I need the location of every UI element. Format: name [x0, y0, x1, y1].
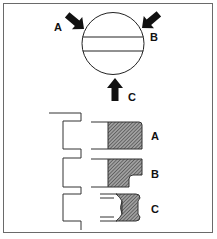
label-b-profile: B — [151, 168, 159, 180]
arrow-c-icon — [107, 78, 123, 101]
ball-top-view — [82, 13, 144, 75]
label-a-top: A — [54, 21, 62, 33]
label-a-profile: A — [151, 130, 159, 142]
profile-b — [91, 159, 142, 187]
label-c-top: C — [128, 91, 136, 103]
label-c-profile: C — [151, 203, 159, 215]
profile-c — [100, 194, 140, 221]
profile-a — [91, 122, 142, 149]
groove-outline — [49, 113, 81, 230]
diagram-canvas: A B C A B C — [0, 0, 217, 239]
label-b-top: B — [150, 31, 158, 43]
